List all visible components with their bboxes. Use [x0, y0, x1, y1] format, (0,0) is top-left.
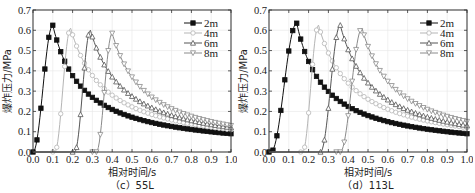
y-tick-label: 0.2	[254, 106, 267, 117]
x-tick-label: 0.5	[361, 154, 374, 165]
y-tick-label: 0.1	[18, 126, 31, 137]
pressure-chart-113L: 0.00.10.20.30.40.50.60.70.80.91.00.00.10…	[236, 0, 473, 193]
y-tick-label: 0.1	[254, 126, 267, 137]
y-tick-label: 0.0	[18, 147, 31, 158]
x-tick-label: 1.0	[460, 154, 473, 165]
x-tick-label: 0.1	[46, 154, 59, 165]
x-axis-title: 相对时间/s	[108, 166, 157, 178]
y-tick-label: 0.5	[18, 45, 31, 56]
chart-caption: （d）113L	[342, 180, 393, 191]
y-tick-label: 0.6	[254, 25, 267, 36]
y-axis-title: 爆炸压力/MPa	[237, 49, 249, 113]
y-tick-label: 0.3	[18, 86, 31, 97]
y-tick-label: 0.7	[18, 5, 31, 16]
x-tick-label: 0.3	[86, 154, 99, 165]
x-tick-label: 0.3	[322, 154, 335, 165]
x-tick-label: 0.8	[421, 154, 434, 165]
x-axis-title: 相对时间/s	[344, 166, 393, 178]
chart-panel-55L: 0.00.10.20.30.40.50.60.70.80.91.00.00.10…	[0, 0, 237, 193]
legend-label: 8m	[440, 47, 455, 59]
y-tick-label: 0.4	[254, 65, 268, 76]
legend: 2m4m6m8m	[420, 17, 455, 59]
x-tick-label: 0.5	[125, 154, 138, 165]
x-tick-label: 0.4	[106, 154, 120, 165]
y-tick-label: 0.4	[18, 65, 32, 76]
y-tick-label: 0.5	[254, 45, 267, 56]
x-tick-label: 0.1	[282, 154, 295, 165]
legend-item-8m: 8m	[420, 47, 455, 59]
x-tick-label: 0.2	[66, 154, 79, 165]
x-tick-label: 0.6	[381, 154, 394, 165]
y-tick-label: 0.3	[254, 86, 267, 97]
y-axis: 0.00.10.20.30.40.50.60.7	[18, 5, 231, 158]
y-tick-label: 0.6	[18, 25, 31, 36]
legend-label: 8m	[204, 47, 219, 59]
x-tick-label: 0.7	[165, 154, 178, 165]
chart-panel-113L: 0.00.10.20.30.40.50.60.70.80.91.00.00.10…	[236, 0, 473, 193]
x-tick-label: 0.8	[185, 154, 198, 165]
y-tick-label: 0.7	[254, 5, 267, 16]
y-axis-title: 爆炸压力/MPa	[1, 49, 13, 113]
legend-item-8m: 8m	[184, 47, 219, 59]
x-tick-label: 0.6	[145, 154, 158, 165]
x-tick-label: 0.9	[441, 154, 454, 165]
chart-caption: （c）55L	[110, 180, 154, 191]
x-tick-label: 0.4	[342, 154, 356, 165]
x-tick-label: 0.7	[401, 154, 414, 165]
x-tick-label: 0.9	[205, 154, 218, 165]
y-tick-label: 0.0	[254, 147, 267, 158]
legend: 2m4m6m8m	[184, 17, 219, 59]
pressure-chart-55L: 0.00.10.20.30.40.50.60.70.80.91.00.00.10…	[0, 0, 237, 193]
x-tick-label: 0.2	[302, 154, 315, 165]
y-tick-label: 0.2	[18, 106, 31, 117]
